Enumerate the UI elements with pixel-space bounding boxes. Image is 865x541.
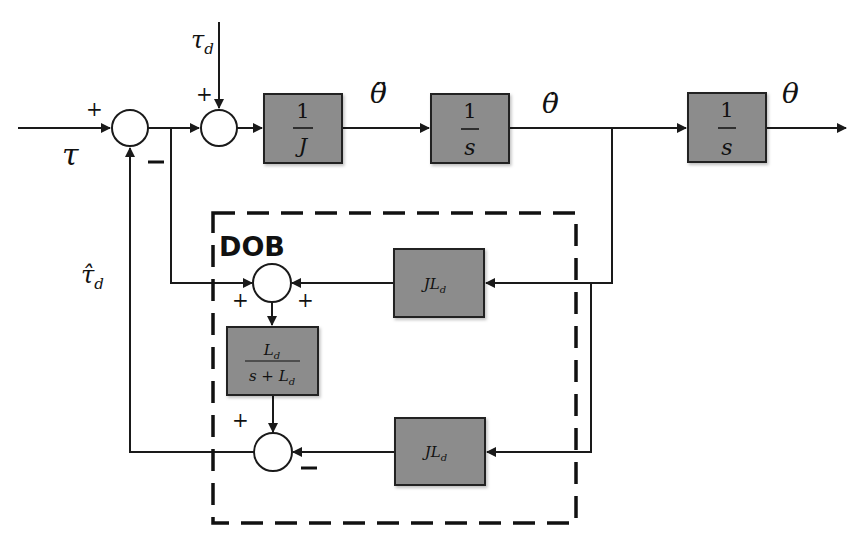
filter-den: s + Ld: [249, 367, 295, 387]
disturbance-label: τd: [191, 26, 214, 58]
integrator1-num: 1: [463, 99, 476, 123]
sum2-junction: [201, 110, 237, 146]
summing-junctions: [112, 110, 292, 471]
integrator2-num: 1: [720, 98, 733, 122]
wires: [18, 22, 846, 452]
inertia-num: 1: [296, 99, 309, 123]
sum3-right-plus-sign: +: [297, 288, 314, 312]
integrator2-den: s: [721, 135, 732, 160]
velocity-label: θ̇: [542, 87, 559, 120]
sum4-junction: [254, 433, 292, 471]
sum1-junction: [112, 110, 148, 146]
dob-label: DOB: [219, 231, 285, 262]
estimate-label: τ̂d: [81, 261, 104, 293]
input-label: τ: [62, 137, 79, 172]
sum2-plus-sign: +: [196, 82, 213, 106]
sum1-plus-sign: +: [86, 97, 103, 121]
sum3-left-plus-sign: +: [232, 288, 249, 312]
output-label: θ: [782, 77, 799, 110]
accel-label: θ̈: [370, 77, 387, 110]
sum4-plus-sign: +: [232, 408, 249, 432]
integrator1-den: s: [464, 135, 475, 160]
sum3-junction: [253, 264, 291, 302]
dob-block-diagram: DOB 1 J 1 s 1 s JLd JLd Ld s +: [0, 0, 865, 541]
